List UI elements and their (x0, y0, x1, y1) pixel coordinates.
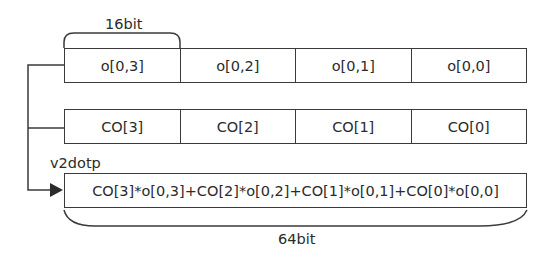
co-cell-1: CO[1] (296, 110, 412, 143)
top-brace-label: 16bit (105, 16, 142, 32)
o-row: o[0,3] o[0,2] o[0,1] o[0,0] (64, 48, 527, 83)
co-cell-3: CO[3] (65, 110, 181, 143)
result-box: CO[3]*o[0,3]+CO[2]*o[0,2]+CO[1]*o[0,1]+C… (64, 173, 527, 208)
bottom-brace (64, 210, 527, 226)
arrow-head-icon (50, 183, 63, 197)
o-cell-2: o[0,2] (181, 49, 297, 82)
top-brace (64, 33, 180, 48)
op-label: v2dotp (50, 155, 101, 171)
result-expression: CO[3]*o[0,3]+CO[2]*o[0,2]+CO[1]*o[0,1]+C… (92, 183, 499, 199)
co-row: CO[3] CO[2] CO[1] CO[0] (64, 109, 527, 144)
bottom-brace-label: 64bit (278, 231, 315, 247)
co-cell-2: CO[2] (181, 110, 297, 143)
co-cell-0: CO[0] (412, 110, 527, 143)
o-cell-1: o[0,1] (296, 49, 412, 82)
o-cell-3: o[0,3] (65, 49, 181, 82)
o-cell-0: o[0,0] (412, 49, 527, 82)
